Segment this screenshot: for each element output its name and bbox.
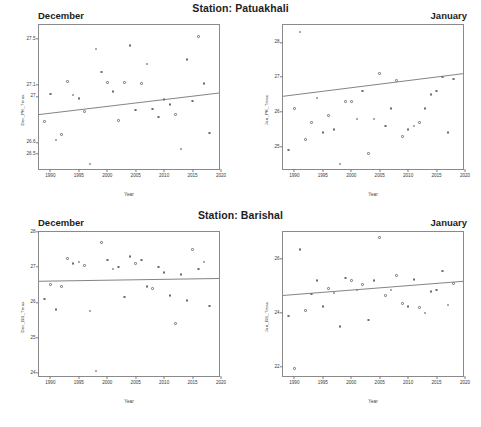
data-point	[378, 236, 381, 239]
data-point	[390, 289, 393, 292]
x-axis-tick: 2005	[375, 169, 385, 178]
x-axis-title: Year	[282, 192, 464, 197]
y-axis-tick: 24	[274, 311, 283, 316]
x-axis-tick: 2000	[102, 169, 112, 178]
panel-title: December	[38, 217, 84, 228]
x-axis-title: Year	[38, 399, 220, 404]
data-point	[60, 285, 63, 288]
data-point	[106, 81, 109, 84]
data-point	[384, 125, 387, 128]
y-axis-tick: 26	[30, 300, 39, 305]
plot-area: 2224261990199520002005201020152020	[282, 231, 464, 377]
data-point	[424, 107, 427, 110]
data-point	[304, 309, 307, 312]
data-point	[66, 257, 69, 260]
data-point	[367, 319, 370, 322]
data-point	[123, 296, 126, 299]
y-axis-title: Jan_BS_Tmax	[264, 302, 269, 332]
data-point	[180, 148, 183, 151]
x-axis-tick: 1990	[289, 169, 299, 178]
data-point	[413, 278, 416, 281]
station-block-patuakhali: Station: Patuakhali December Dec_PK_Tmax…	[0, 0, 481, 213]
data-point	[83, 110, 86, 113]
data-point	[441, 76, 444, 79]
data-point	[208, 132, 211, 135]
x-axis-tick: 1990	[289, 376, 299, 385]
data-point	[151, 108, 154, 111]
data-point	[78, 97, 81, 100]
data-point	[418, 306, 421, 309]
data-point	[435, 90, 438, 93]
data-point	[66, 80, 69, 83]
trend-line	[283, 25, 463, 169]
data-point	[316, 97, 319, 100]
data-point	[129, 255, 132, 258]
data-point	[43, 120, 46, 123]
data-point	[384, 294, 387, 297]
data-point	[287, 149, 290, 152]
data-point	[322, 305, 325, 308]
data-point	[49, 283, 52, 286]
data-point	[401, 302, 404, 305]
data-point	[344, 100, 347, 103]
y-axis-title: Dec_PK_Tmax	[20, 94, 25, 125]
data-point	[430, 93, 433, 96]
data-point	[157, 116, 160, 119]
data-point	[180, 273, 183, 276]
data-point	[395, 79, 398, 82]
data-point	[413, 125, 416, 128]
data-point	[339, 163, 342, 166]
data-point	[134, 109, 137, 112]
data-point	[356, 289, 359, 292]
plot-area: 252627281990199520002005201020152020	[282, 24, 464, 170]
data-point	[208, 305, 211, 308]
x-axis-tick: 2020	[460, 376, 470, 385]
data-point	[186, 299, 189, 302]
y-axis-tick: 22	[274, 365, 283, 370]
data-point	[106, 259, 109, 262]
data-point	[186, 58, 189, 61]
data-point	[146, 285, 149, 288]
x-axis-tick: 2020	[460, 169, 470, 178]
data-point	[174, 322, 177, 325]
panel-barishal-december: December Dec_BS_Tmax 2425262728199019952…	[4, 217, 229, 417]
panel-patuakhali-january: January Jan_PK_Tmax 25262728199019952000…	[248, 10, 473, 210]
data-point	[373, 279, 376, 282]
data-point	[424, 312, 427, 315]
data-point	[203, 261, 206, 264]
data-point	[163, 271, 166, 274]
x-axis-tick: 2015	[187, 376, 197, 385]
data-point	[378, 72, 381, 75]
data-point	[89, 310, 92, 313]
data-point	[129, 44, 132, 47]
data-point	[293, 107, 296, 110]
y-axis-tick: 27	[274, 75, 283, 80]
data-point	[72, 94, 75, 97]
data-point	[169, 103, 172, 106]
y-axis-tick: 27.1	[27, 82, 39, 87]
data-point	[401, 135, 404, 138]
data-point	[203, 82, 206, 85]
data-point	[344, 277, 347, 280]
data-point	[174, 113, 177, 116]
data-point	[407, 128, 410, 131]
data-point	[55, 139, 58, 142]
y-axis-tick: 25	[30, 335, 39, 340]
data-point	[100, 71, 103, 74]
data-point	[293, 367, 296, 370]
data-point	[310, 121, 313, 124]
data-point	[327, 114, 330, 117]
data-point	[83, 264, 86, 267]
data-point	[112, 90, 115, 93]
x-axis-tick: 2000	[346, 376, 356, 385]
y-axis-tick: 28	[30, 230, 39, 235]
x-axis-tick: 1995	[74, 376, 84, 385]
x-axis-tick: 2010	[159, 376, 169, 385]
panel-title: January	[431, 10, 467, 21]
y-axis-tick: 25	[274, 144, 283, 149]
data-point	[299, 248, 302, 251]
data-point	[151, 287, 154, 290]
y-axis-tick: 26.6	[27, 140, 39, 145]
x-axis-tick: 2010	[403, 169, 413, 178]
x-axis-tick: 2015	[431, 376, 441, 385]
